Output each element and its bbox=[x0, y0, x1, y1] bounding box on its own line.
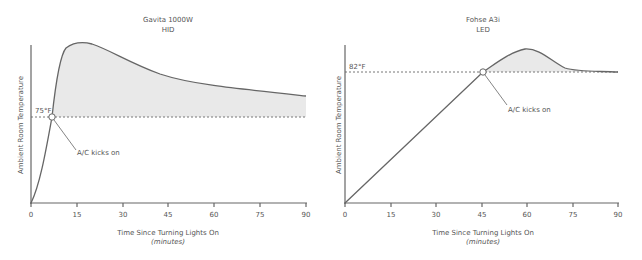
area-above-threshold bbox=[52, 43, 306, 117]
y-axis-label: Ambient Room Temperature bbox=[335, 76, 343, 174]
chart-gavita: Gavita 1000W HID 0 15 30 45 60 75 90 Tim… bbox=[17, 16, 310, 246]
tick-label: 75 bbox=[569, 211, 578, 219]
x-axis-unit: (minutes) bbox=[466, 238, 500, 246]
charts-canvas: Gavita 1000W HID 0 15 30 45 60 75 90 Tim… bbox=[0, 0, 642, 260]
annotation-leader bbox=[485, 75, 507, 105]
tick-label: 45 bbox=[478, 211, 487, 219]
tick-label: 0 bbox=[29, 211, 33, 219]
tick-label: 30 bbox=[432, 211, 441, 219]
x-axis-label: Time Since Turning Lights On bbox=[116, 229, 219, 237]
annotation-label: A/C kicks on bbox=[77, 149, 120, 157]
tick-label: 90 bbox=[302, 211, 311, 219]
x-axis-unit: (minutes) bbox=[151, 238, 185, 246]
ac-kicks-on-marker bbox=[480, 69, 486, 75]
tick-label: 90 bbox=[614, 211, 623, 219]
x-ticks bbox=[31, 203, 306, 207]
chart-title: Gavita 1000W bbox=[143, 16, 193, 24]
x-axis-label: Time Since Turning Lights On bbox=[431, 229, 534, 237]
tick-label: 75 bbox=[256, 211, 265, 219]
threshold-label: 82°F bbox=[349, 63, 365, 71]
chart-subtitle: LED bbox=[476, 26, 490, 34]
tick-label: 15 bbox=[387, 211, 396, 219]
chart-fohse: Fohse A3i LED 0 15 30 45 60 75 90 Time S… bbox=[335, 16, 622, 246]
area-above-threshold bbox=[483, 49, 618, 72]
ac-kicks-on-marker bbox=[49, 114, 55, 120]
tick-label: 0 bbox=[343, 211, 347, 219]
y-axis-label: Ambient Room Temperature bbox=[17, 76, 25, 174]
tick-label: 30 bbox=[119, 211, 128, 219]
tick-label: 45 bbox=[164, 211, 173, 219]
threshold-label: 75°F bbox=[35, 107, 51, 115]
tick-label: 15 bbox=[73, 211, 82, 219]
annotation-label: A/C kicks on bbox=[508, 106, 551, 114]
tick-label: 60 bbox=[523, 211, 532, 219]
tick-label: 60 bbox=[210, 211, 219, 219]
annotation-leader bbox=[54, 120, 76, 150]
x-ticks bbox=[345, 203, 618, 207]
chart-title: Fohse A3i bbox=[466, 16, 500, 24]
chart-subtitle: HID bbox=[162, 26, 175, 34]
